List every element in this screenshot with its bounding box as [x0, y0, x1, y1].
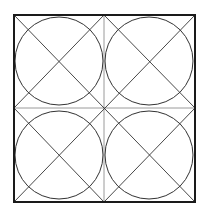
- geometric-diagram: [0, 0, 207, 218]
